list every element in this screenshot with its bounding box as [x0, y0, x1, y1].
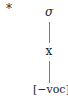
timing-slot-node: x — [44, 45, 54, 57]
feature-bundle-node: [−voc] — [33, 84, 67, 96]
ungrammatical-asterisk: * — [6, 3, 12, 15]
association-line-upper — [49, 22, 50, 43]
association-line-lower — [49, 61, 50, 83]
syllable-node: σ — [44, 6, 54, 18]
